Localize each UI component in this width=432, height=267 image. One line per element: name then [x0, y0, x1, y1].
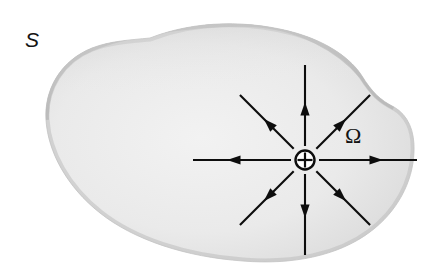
point-charge-symbol [296, 151, 315, 170]
surface-label-s: S [25, 28, 39, 51]
region-label-omega: Ω [345, 123, 361, 148]
diagram-svg: S Ω [0, 0, 432, 267]
figure-canvas: S Ω [0, 0, 432, 267]
